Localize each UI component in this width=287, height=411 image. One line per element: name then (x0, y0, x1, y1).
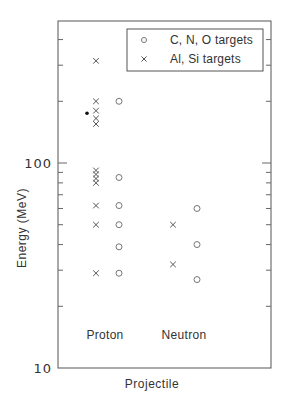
cross-marker (93, 58, 99, 64)
circle-marker (194, 277, 200, 283)
circle-marker (116, 222, 122, 228)
cross-marker (93, 203, 99, 209)
data-markers (85, 58, 200, 283)
legend-label: C, N, O targets (170, 33, 253, 47)
x-axis-title: Projectile (125, 377, 179, 391)
cross-marker (170, 262, 176, 268)
category-labels: ProtonNeutron (86, 328, 206, 342)
cross-marker (93, 121, 99, 127)
circle-marker (116, 270, 122, 276)
dot-marker (85, 111, 89, 115)
axis-ticks (58, 40, 271, 307)
circle-marker (116, 98, 122, 104)
y-tick-label: 100 (24, 156, 52, 171)
cross-marker (93, 98, 99, 104)
y-tick-label: 10 (33, 361, 52, 376)
category-label-proton: Proton (86, 328, 123, 342)
cross-marker (93, 222, 99, 228)
circle-marker (116, 203, 122, 209)
circle-marker (194, 242, 200, 248)
energy-projectile-chart: 10100 ProtonNeutron C, N, O targetsAl, S… (0, 0, 287, 411)
legend: C, N, O targetsAl, Si targets (127, 29, 263, 71)
cross-marker (93, 108, 99, 114)
plot-frame (58, 21, 271, 368)
plot-border (58, 21, 271, 368)
y-axis-title: Energy (MeV) (15, 188, 29, 268)
circle-marker (116, 244, 122, 250)
cross-marker (93, 116, 99, 122)
cross-marker (93, 180, 99, 186)
circle-marker (194, 205, 200, 211)
circle-marker (116, 174, 122, 180)
cross-marker (170, 222, 176, 228)
legend-label: Al, Si targets (170, 52, 241, 66)
category-label-neutron: Neutron (162, 328, 207, 342)
cross-marker (93, 270, 99, 276)
